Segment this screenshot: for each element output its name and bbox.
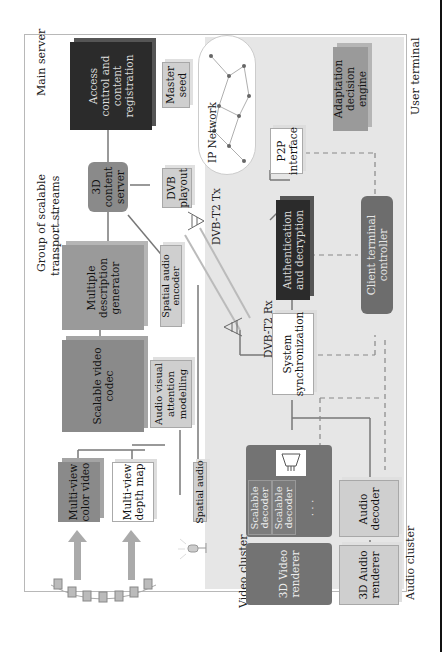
- user-terminal-label: User terminal: [409, 38, 422, 115]
- audio-cluster-label: Audio cluster: [404, 526, 417, 600]
- audio-renderer-box: 3D Audiorenderer: [339, 545, 399, 605]
- microphone-icon: [178, 535, 208, 565]
- svc-box: Scalable videocodec: [62, 340, 144, 432]
- main-server-label: Main server: [35, 29, 48, 96]
- dvb-playout-box: DVBplayout: [162, 168, 192, 208]
- audio-decoder-box: Audiodecoder: [339, 480, 399, 537]
- video-renderer-box: 3D Videorenderer: [246, 543, 332, 605]
- av-attention-box: Audio visualattentionmodelling: [150, 360, 192, 428]
- dvb-tx-label: DVB-T2 Tx: [210, 188, 222, 245]
- mv-color-box: Multi-viewcolor video: [58, 462, 100, 522]
- scalable-decoder-1: Scalabledecoder: [248, 480, 272, 535]
- spatial-audio-box: Spatial audio: [193, 462, 207, 522]
- mv-depth-box: Multi-viewdepth map: [112, 462, 154, 522]
- content-server-box: 3Dcontentserver: [88, 162, 128, 212]
- ip-network-label: IP Network: [206, 102, 218, 163]
- auth-decryption-box: Authenticationand decryption: [276, 200, 310, 300]
- broadcast-tower-icon: [186, 210, 206, 232]
- spatial-audio-encoder-box: Spatial audioencoder: [160, 245, 182, 327]
- client-controller-box: Client terminalcontroller: [361, 196, 393, 314]
- scalable-decoder-2: Scalabledecoder: [272, 480, 296, 535]
- md-generator-box: Multipledescriptiongenerator: [62, 245, 144, 330]
- adaptation-engine-box: Adaptationdecisionengine: [333, 47, 368, 131]
- display-icon: [276, 450, 306, 476]
- master-seed-box: Masterseed: [162, 62, 190, 108]
- access-control-box: Accesscontrol andcontentregistration: [70, 42, 152, 130]
- group-streams-label-1: Group of scalable: [35, 174, 48, 272]
- receiver-tower-icon: [222, 316, 244, 338]
- sys-sync-box: Systemsynchronization: [272, 313, 314, 395]
- decoder-ellipsis: · · ·: [296, 480, 330, 535]
- camera-array-icon: [46, 565, 161, 605]
- p2p-interface-box: P2Pinterface: [270, 128, 303, 174]
- group-streams-label-2: transport streams: [49, 176, 62, 276]
